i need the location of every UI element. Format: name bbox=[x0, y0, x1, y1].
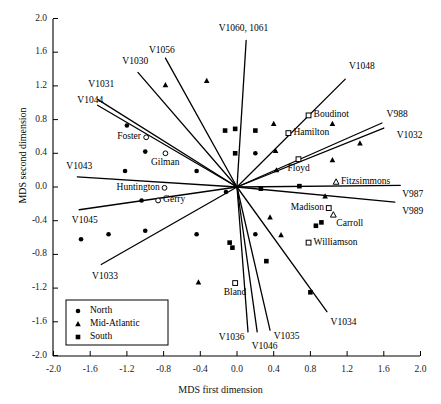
point-label: Williamson bbox=[314, 237, 358, 247]
y-tick-label: 2.0 bbox=[19, 13, 47, 23]
vector-label: V1035 bbox=[274, 331, 300, 341]
x-tick-label: 1.6 bbox=[370, 364, 398, 374]
vector-label: V1031 bbox=[88, 79, 114, 89]
vector-label: V1044 bbox=[77, 95, 103, 105]
point-label: Madison bbox=[291, 202, 324, 212]
vector-label: V1045 bbox=[72, 215, 98, 225]
vector-label: V1030 bbox=[122, 56, 148, 66]
point-label: Fitzsimmons bbox=[341, 176, 390, 186]
y-tick-label: -0.8 bbox=[19, 248, 47, 258]
x-tick-label: -2.0 bbox=[40, 364, 68, 374]
vector-label: V1056 bbox=[149, 45, 175, 55]
x-tick-label: -0.4 bbox=[186, 364, 214, 374]
point-label: Huntington bbox=[117, 182, 160, 192]
y-tick-label: 1.6 bbox=[19, 46, 47, 56]
vector-label: V989 bbox=[402, 206, 423, 216]
y-axis-label: MDS second dimension bbox=[17, 96, 28, 216]
point-label: Boudinot bbox=[314, 109, 349, 119]
y-tick-label: -1.6 bbox=[19, 316, 47, 326]
x-tick-label: -1.2 bbox=[113, 364, 141, 374]
y-tick-label: -1.2 bbox=[19, 282, 47, 292]
x-tick-label: 1.2 bbox=[333, 364, 361, 374]
point-label: Hamilton bbox=[293, 127, 329, 137]
vector-label: V1046 bbox=[252, 341, 278, 351]
vector-label: V987 bbox=[402, 189, 423, 199]
y-tick-label: -0.4 bbox=[19, 215, 47, 225]
x-tick-label: 0.8 bbox=[296, 364, 324, 374]
y-tick-label: 1.2 bbox=[19, 80, 47, 90]
legend-item-label: Mid-Atlantic bbox=[90, 318, 140, 328]
point-label: Bland bbox=[224, 287, 247, 297]
legend-item-label: South bbox=[90, 331, 112, 341]
legend-item-label: North bbox=[90, 305, 112, 315]
x-tick-label: 2.0 bbox=[407, 364, 435, 374]
vector-label: V988 bbox=[387, 109, 408, 119]
vector-label: V1048 bbox=[349, 61, 375, 71]
vector-label: V1033 bbox=[92, 271, 118, 281]
mds-biplot-figure: -2.0-1.6-1.2-0.8-0.40.00.40.81.21.62.02.… bbox=[0, 0, 441, 404]
point-label: Floyd bbox=[287, 163, 309, 173]
y-tick-label: -2.0 bbox=[19, 350, 47, 360]
point-label: Carroll bbox=[336, 218, 363, 228]
x-tick-label: -1.6 bbox=[76, 364, 104, 374]
vector-label: V1034 bbox=[331, 317, 357, 327]
point-label: Foster bbox=[117, 131, 141, 141]
point-label: Gilman bbox=[151, 157, 180, 167]
x-axis-label: MDS first dimension bbox=[0, 384, 441, 395]
vector-label: V1036 bbox=[219, 332, 245, 342]
x-tick-label: 0.0 bbox=[223, 364, 251, 374]
vector-label: V1032 bbox=[397, 130, 423, 140]
point-label: Gerry bbox=[163, 194, 185, 204]
vector-label: V1060, 1061 bbox=[219, 23, 269, 33]
x-tick-label: -0.8 bbox=[150, 364, 178, 374]
vector-label: V1043 bbox=[66, 161, 92, 171]
x-tick-label: 0.4 bbox=[260, 364, 288, 374]
